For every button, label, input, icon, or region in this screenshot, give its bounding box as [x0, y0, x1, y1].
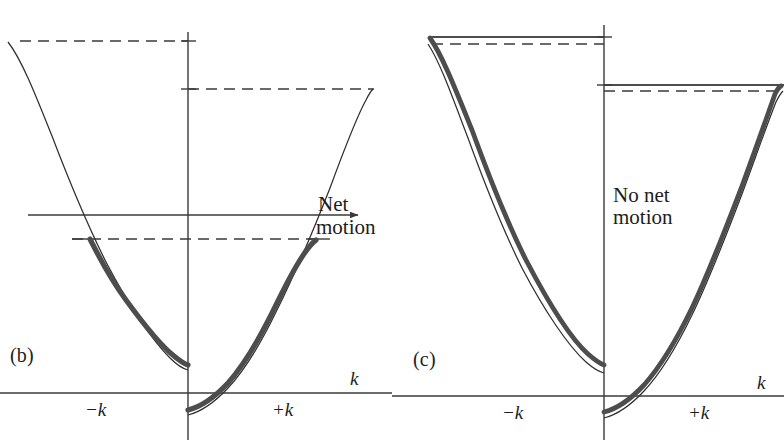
panel-b-band-right-occupied	[188, 240, 316, 410]
panel-c-band-left-occupied	[430, 38, 604, 365]
panel-c-annotation-line2: motion	[613, 206, 673, 228]
panel-b-label: (b)	[10, 344, 34, 367]
panel-b-tick-label-plus-k: +k	[272, 399, 293, 421]
panel-b-annotation-line2: motion	[316, 216, 376, 238]
panel-b-tick-label-minus-k: −k	[85, 399, 106, 421]
panel-c-annotation-line1: No net	[613, 184, 670, 206]
panel-b-band-left-occupied	[90, 239, 188, 365]
panel-c-tick-label-plus-k: +k	[688, 402, 709, 424]
panel-c-tick-label-minus-k: −k	[502, 402, 523, 424]
band-structure-figure: (b) k −k +k Net motion (c) k −k +k No ne…	[0, 0, 784, 440]
panel-c	[392, 25, 784, 440]
panel-c-axis-label-k: k	[757, 372, 765, 394]
panel-b-axis-label-k: k	[350, 368, 358, 390]
panel-b-annotation-line1: Net	[318, 193, 348, 215]
panel-c-band-left-thin	[428, 44, 604, 373]
panel-b-band-right-thin	[188, 89, 373, 415]
panel-c-band-right-occupied	[604, 86, 781, 412]
panel-b-band-left-thin	[8, 42, 188, 370]
panel-c-label: (c)	[413, 348, 436, 371]
